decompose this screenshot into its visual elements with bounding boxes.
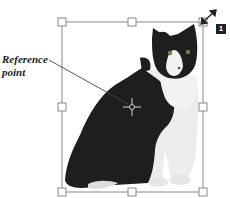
handle-bottom-left[interactable] [58, 188, 66, 196]
handle-bottom-center[interactable] [128, 188, 136, 196]
callout-line-1: Reference [2, 53, 48, 66]
cat-image[interactable] [65, 24, 198, 189]
step-number-badge: 1 [216, 24, 226, 34]
callout-leader-line [49, 60, 128, 104]
reference-point-callout: Reference point [2, 53, 48, 79]
handle-top-center[interactable] [128, 18, 136, 26]
handle-middle-left[interactable] [58, 103, 66, 111]
callout-line-2: point [2, 66, 48, 79]
handle-bottom-right[interactable] [199, 188, 207, 196]
handle-top-left[interactable] [58, 18, 66, 26]
diagonal-resize-arrow-icon [201, 10, 216, 24]
handle-middle-right[interactable] [199, 103, 207, 111]
canvas [0, 0, 230, 198]
